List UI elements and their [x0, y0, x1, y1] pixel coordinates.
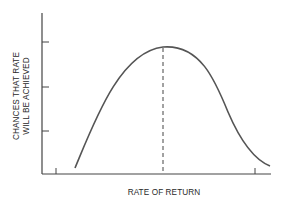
chart: CHANCES THAT RATE WILL BE ACHIEVED RATE … — [0, 0, 285, 202]
y-axis-label-line1: CHANCES THAT RATE — [12, 52, 21, 140]
distribution-curve — [75, 47, 270, 168]
y-axis-label-line2: WILL BE ACHIEVED — [22, 57, 31, 134]
x-axis-label: RATE OF RETURN — [128, 188, 201, 197]
